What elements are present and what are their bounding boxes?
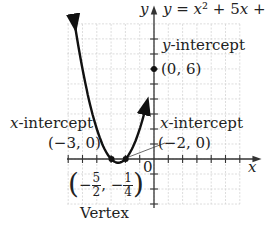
vertex-title: Vertex [80,206,129,221]
parabola-graph: y y = x² + 5x + y-intercept (0, 6) x-int… [0,0,265,233]
y-intercept-title: y-intercept [162,38,245,53]
y-intercept-coords: (0, 6) [161,62,201,77]
x-intercept-point-right [123,156,129,162]
origin-label: 0 [143,160,153,175]
x-axis-label: x [248,160,256,175]
vertex-coords: (−52, −14) [68,170,144,199]
x-intercept-left-coords: (−3, 0) [48,136,101,151]
x-intercept-right-coords: (−2, 0) [158,136,211,151]
equation-label: y = x² + 5x + [163,2,265,17]
x-intercept-left-title: x-intercept [10,116,93,131]
x-intercept-point-left [109,156,115,162]
x-intercept-right-title: x-intercept [160,116,243,131]
y-axis-label: y [140,2,148,17]
y-intercept-point [151,66,157,72]
